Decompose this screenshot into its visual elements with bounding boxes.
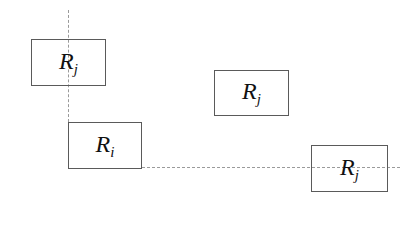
label-subscript: j — [257, 91, 261, 107]
region-box-ri: Ri — [68, 122, 142, 169]
label-subscript: j — [74, 61, 78, 77]
region-label: Rj — [242, 79, 261, 107]
region-box-rj-bottom-right: Rj — [311, 145, 388, 192]
label-subscript: j — [355, 167, 359, 183]
label-base: R — [59, 48, 74, 74]
label-base: R — [96, 131, 111, 157]
label-subscript: i — [110, 144, 114, 160]
region-label: Ri — [96, 132, 115, 160]
region-box-rj-middle: Rj — [214, 70, 289, 116]
label-base: R — [242, 78, 257, 104]
region-label: Rj — [59, 49, 78, 77]
label-base: R — [340, 154, 355, 180]
region-box-rj-top-left: Rj — [31, 39, 106, 86]
region-label: Rj — [340, 155, 359, 183]
